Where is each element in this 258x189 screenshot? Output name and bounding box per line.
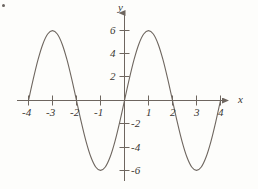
graph-figure: -4 -3 -2 -1 1 2 3 4 6 4 2 -2 -4 -6 y x — [0, 0, 258, 189]
x-tick-label--1: -1 — [94, 107, 103, 118]
x-tick-label-4: 4 — [218, 107, 224, 118]
x-tick-label-3: 3 — [194, 107, 200, 118]
x-axis-label: x — [238, 94, 243, 105]
y-tick-label--2: -2 — [131, 118, 140, 129]
y-tick-label-4: 4 — [110, 48, 116, 59]
y-tick-label--4: -4 — [131, 142, 140, 153]
y-tick-label-6: 6 — [110, 25, 116, 36]
x-tick-label--4: -4 — [22, 107, 31, 118]
x-tick-label-2: 2 — [170, 107, 176, 118]
x-tick-label--3: -3 — [46, 107, 55, 118]
y-tick-label-2: 2 — [110, 71, 116, 82]
y-axis-label: y — [118, 2, 123, 13]
x-tick-label--2: -2 — [70, 107, 79, 118]
function-plot — [0, 0, 258, 189]
x-tick-label-1: 1 — [146, 107, 152, 118]
y-tick-label--6: -6 — [131, 165, 140, 176]
